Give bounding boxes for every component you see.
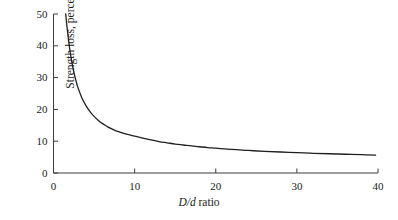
chart-figure: 01020304050 010203040 Strength loss, per… <box>0 0 398 220</box>
y-axis-tick-label: 40 <box>26 40 48 51</box>
x-axis-tick-label: 30 <box>282 181 312 192</box>
x-axis-title: D/d ratio <box>0 196 398 209</box>
x-axis-title-italic-part: D/d <box>178 196 195 208</box>
y-axis-tick-label: 0 <box>26 168 48 179</box>
y-axis-tick-label: 10 <box>26 136 48 147</box>
x-axis-tick-label: 0 <box>39 181 69 192</box>
y-axis-tick-label: 20 <box>26 104 48 115</box>
y-axis-title: Strength loss, percent <box>63 0 77 99</box>
x-axis-tick-label: 20 <box>201 181 231 192</box>
y-axis-tick-label: 30 <box>26 72 48 83</box>
x-axis-tick-label: 40 <box>363 181 393 192</box>
x-axis-tick-label: 10 <box>120 181 150 192</box>
y-axis-tick-label: 50 <box>26 9 48 20</box>
x-axis-title-plain-part: ratio <box>196 196 220 208</box>
